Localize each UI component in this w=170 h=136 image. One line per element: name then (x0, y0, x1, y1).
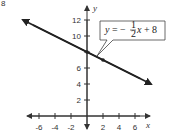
x-tick-label: -4 (51, 123, 59, 132)
x-tick-label: 4 (117, 123, 122, 132)
fraction-denominator: 2 (131, 28, 136, 39)
equation-rest: x + 8 (136, 24, 157, 35)
x-axis-label: x (145, 120, 150, 130)
y-tick-label: 6 (77, 64, 82, 73)
x-tick-label: 6 (133, 123, 138, 132)
x-tick-label: -6 (35, 123, 43, 132)
graph: 8 -6 -4 -2 2 4 6 x 12 10 6 4 2 y (0, 0, 170, 136)
y-tick-label: 4 (77, 80, 82, 89)
equation-label: y = − (104, 24, 126, 35)
y-tick-label: 2 (77, 96, 82, 105)
y-axis-label: y (92, 3, 97, 13)
point-0-8 (85, 50, 89, 54)
y-tick-label: 10 (72, 32, 81, 41)
panel-label: 8 (1, 0, 6, 8)
x-tick-label: -2 (67, 123, 75, 132)
y-tick-label: 12 (72, 16, 81, 25)
point-2-7 (101, 58, 105, 62)
x-tick-label: 2 (101, 123, 106, 132)
